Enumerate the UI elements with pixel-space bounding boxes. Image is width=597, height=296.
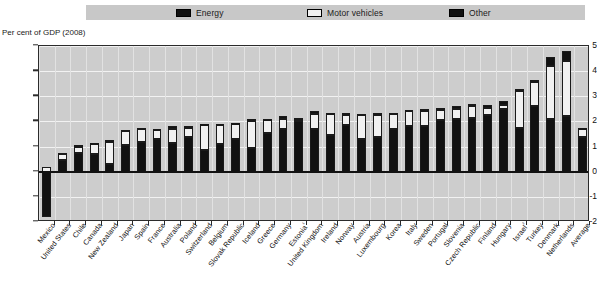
legend-label-other: Other: [469, 8, 491, 18]
bar-group[interactable]: [279, 46, 288, 220]
bar-segment-motor-vehicles: [483, 108, 492, 116]
bar-segment-energy: [294, 121, 303, 171]
vertical-gridline: [70, 46, 71, 220]
plot-area: [38, 45, 589, 221]
vertical-gridline: [480, 46, 481, 220]
bar-group[interactable]: [247, 46, 256, 220]
bar-segment-other: [216, 124, 225, 126]
bar-group[interactable]: [153, 46, 162, 220]
vertical-gridline: [574, 46, 575, 220]
bar-segment-motor-vehicles: [389, 114, 398, 129]
bar-group[interactable]: [168, 46, 177, 220]
bar-group[interactable]: [468, 46, 477, 220]
bar-segment-other: [326, 113, 335, 115]
bar-group[interactable]: [452, 46, 461, 220]
legend-item-other: Other: [449, 6, 491, 19]
bar-segment-energy: [420, 126, 429, 171]
bar-group[interactable]: [357, 46, 366, 220]
bar-group[interactable]: [389, 46, 398, 220]
bar-group[interactable]: [58, 46, 67, 220]
bar-group[interactable]: [74, 46, 83, 220]
bar-segment-other: [231, 123, 240, 125]
vertical-gridline: [165, 46, 166, 220]
bar-group[interactable]: [294, 46, 303, 220]
bar-segment-motor-vehicles: [468, 106, 477, 117]
bar-segment-motor-vehicles: [420, 111, 429, 126]
vertical-gridline: [385, 46, 386, 220]
vertical-gridline: [354, 46, 355, 220]
bar-group[interactable]: [373, 46, 382, 220]
bar-segment-motor-vehicles: [562, 61, 571, 116]
bar-group[interactable]: [530, 46, 539, 220]
bar-segment-other: [137, 128, 146, 130]
bar-segment-energy: [216, 144, 225, 172]
bar-segment-energy: [562, 116, 571, 171]
legend-swatch-motor-vehicles-icon: [307, 9, 322, 17]
y-axis-caption: Per cent of GDP (2008): [2, 28, 85, 37]
bar-segment-motor-vehicles: [530, 82, 539, 106]
bar-group[interactable]: [483, 46, 492, 220]
bar-segment-motor-vehicles: [184, 128, 193, 137]
vertical-gridline: [55, 46, 56, 220]
bar-group[interactable]: [342, 46, 351, 220]
bar-group[interactable]: [499, 46, 508, 220]
bar-group[interactable]: [310, 46, 319, 220]
bar-group[interactable]: [546, 46, 555, 220]
vertical-gridline: [39, 46, 40, 220]
bar-group[interactable]: [90, 46, 99, 220]
bar-segment-energy: [499, 109, 508, 172]
vertical-gridline: [86, 46, 87, 220]
bar-group[interactable]: [200, 46, 209, 220]
vertical-gridline: [370, 46, 371, 220]
bar-segment-other: [90, 143, 99, 145]
bar-segment-motor-vehicles: [578, 129, 587, 137]
bar-segment-other: [499, 101, 508, 105]
bar-group[interactable]: [263, 46, 272, 220]
x-axis-label: Korea: [384, 221, 403, 242]
bar-segment-other: [530, 80, 539, 83]
bar-segment-energy: [184, 137, 193, 172]
bar-group[interactable]: [420, 46, 429, 220]
bar-segment-other: [105, 140, 114, 142]
bar-segment-energy: [326, 135, 335, 171]
x-axis-labels: MexicoUnited StatesChileCanadaNew Zealan…: [0, 221, 597, 296]
bar-segment-motor-vehicles: [294, 120, 303, 122]
bar-group[interactable]: [578, 46, 587, 220]
bar-segment-energy: [483, 115, 492, 172]
vertical-gridline: [181, 46, 182, 220]
bar-group[interactable]: [562, 46, 571, 220]
bar-segment-energy: [452, 119, 461, 172]
bar-segment-other: [263, 119, 272, 121]
bar-segment-other: [405, 110, 414, 112]
vertical-gridline: [496, 46, 497, 220]
vertical-gridline: [291, 46, 292, 220]
bar-group[interactable]: [105, 46, 114, 220]
bar-segment-other: [342, 113, 351, 116]
bar-group[interactable]: [405, 46, 414, 220]
bar-segment-other: [74, 145, 83, 147]
bar-group[interactable]: [184, 46, 193, 220]
vertical-gridline: [149, 46, 150, 220]
bar-segment-motor-vehicles: [405, 111, 414, 126]
bar-segment-motor-vehicles: [247, 121, 256, 147]
bar-segment-motor-vehicles: [231, 124, 240, 139]
bar-segment-other: [562, 51, 571, 61]
bar-group[interactable]: [42, 46, 51, 220]
chart-page: Energy Motor vehicles Other Per cent of …: [0, 0, 597, 296]
bar-group[interactable]: [231, 46, 240, 220]
bar-segment-motor-vehicles: [342, 115, 351, 125]
bar-segment-other: [153, 129, 162, 131]
bar-group[interactable]: [216, 46, 225, 220]
bar-segment-motor-vehicles: [326, 114, 335, 135]
bar-group[interactable]: [137, 46, 146, 220]
bar-segment-other: [294, 118, 303, 121]
bar-group[interactable]: [436, 46, 445, 220]
bar-group[interactable]: [326, 46, 335, 220]
bar-segment-energy: [530, 106, 539, 171]
bar-segment-energy: [153, 139, 162, 172]
bar-segment-motor-vehicles: [216, 125, 225, 144]
bar-segment-other: [436, 108, 445, 111]
bar-segment-motor-vehicles: [279, 119, 288, 129]
bar-group[interactable]: [515, 46, 524, 220]
bar-group[interactable]: [121, 46, 130, 220]
